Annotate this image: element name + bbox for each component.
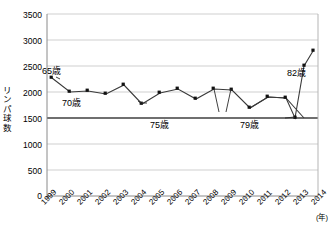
x-axis-unit-label: (年) [316,214,328,222]
annotation-82: 82歳 [287,68,306,78]
annotation-70: 70歳 [62,98,81,108]
annotation-65: 65歳 [42,66,61,76]
chart-container: リ ン パ 球 数 3500 3000 2500 2000 1500 1000 … [0,0,336,231]
annotation-79: 79歳 [240,120,259,130]
series-markers [50,49,315,119]
series-line-lymphocyte-tail [250,51,313,118]
annotation-leaders [56,77,295,118]
annotation-75: 75歳 [150,120,169,130]
